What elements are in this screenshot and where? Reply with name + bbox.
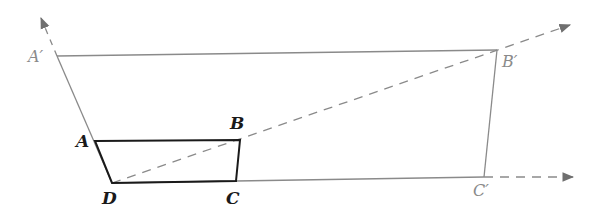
label-c: C xyxy=(226,190,240,207)
label-d: D xyxy=(102,190,117,207)
label-c-prime: C′ xyxy=(473,183,489,199)
diagram-canvas: A B C D A′ B′ C′ xyxy=(0,0,599,216)
label-b: B xyxy=(230,115,244,132)
image-quadrilateral xyxy=(57,50,497,177)
label-a: A xyxy=(76,133,89,150)
label-b-prime: B′ xyxy=(502,54,517,70)
label-a-prime: A′ xyxy=(28,49,43,65)
ray-through-b xyxy=(112,25,570,183)
diagram-svg xyxy=(0,0,599,216)
